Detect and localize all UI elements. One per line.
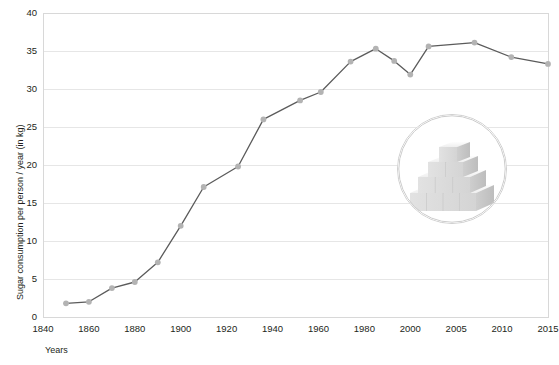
data-point [155, 259, 161, 265]
data-point [297, 98, 303, 104]
data-point [178, 223, 184, 229]
data-point [86, 299, 92, 305]
data-point [348, 59, 354, 65]
data-point [426, 44, 432, 50]
data-point [472, 40, 478, 46]
data-point [545, 61, 551, 67]
data-point [201, 184, 207, 190]
data-point [63, 300, 69, 306]
sugar-cube-pyramid-photo [397, 114, 507, 224]
data-point [391, 58, 397, 64]
data-point [261, 117, 267, 123]
data-point [132, 279, 138, 285]
data-point [373, 46, 379, 52]
data-point [407, 72, 413, 78]
sugar-cube-pyramid-icon [398, 115, 506, 223]
data-point [235, 164, 241, 170]
data-point [508, 54, 514, 60]
sugar-consumption-chart: Sugar consumption per person / year (in … [0, 0, 559, 365]
data-point [318, 89, 324, 95]
data-point [109, 285, 115, 291]
